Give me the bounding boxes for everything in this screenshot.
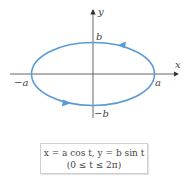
direction-arrow-bottom-icon bbox=[62, 100, 71, 107]
equation-line: x = a cos t, y = b sin t bbox=[41, 147, 147, 159]
label-a: a bbox=[155, 77, 161, 88]
x-axis-label: x bbox=[175, 59, 181, 70]
label-b: b bbox=[96, 31, 102, 42]
label-neg-a: −a bbox=[14, 77, 28, 88]
direction-arrow-top-icon bbox=[118, 42, 126, 49]
parameter-range: (0 ≤ t ≤ 2π) bbox=[41, 159, 147, 171]
y-axis-label: y bbox=[97, 6, 104, 17]
parametric-equation-box: x = a cos t, y = b sin t (0 ≤ t ≤ 2π) bbox=[40, 143, 148, 174]
label-neg-b: −b bbox=[94, 108, 109, 119]
